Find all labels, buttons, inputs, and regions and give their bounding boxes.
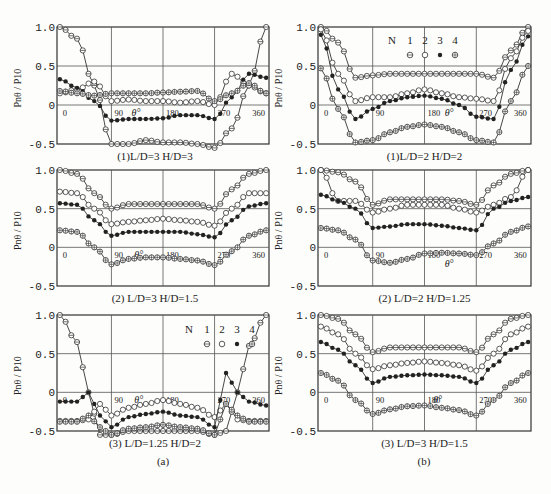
- marker: [434, 223, 438, 227]
- marker: [462, 207, 467, 212]
- marker: [514, 198, 518, 202]
- marker: [526, 324, 531, 329]
- marker: [456, 206, 461, 211]
- marker: [463, 376, 467, 380]
- marker: [167, 115, 171, 119]
- marker: [206, 222, 211, 227]
- marker: [98, 413, 102, 417]
- marker: [422, 87, 427, 92]
- marker: [57, 189, 62, 194]
- marker: [480, 376, 484, 380]
- marker: [189, 99, 194, 104]
- marker: [411, 373, 415, 377]
- marker: [359, 201, 364, 206]
- marker: [143, 401, 148, 406]
- marker: [502, 66, 507, 71]
- marker: [252, 203, 256, 207]
- marker: [405, 95, 409, 99]
- marker: [405, 222, 409, 226]
- legend-marker: [235, 342, 239, 346]
- group-label-a: (a): [157, 455, 169, 467]
- y-tick-label: 0: [309, 387, 316, 399]
- marker: [230, 380, 234, 384]
- marker: [468, 228, 472, 232]
- marker: [376, 95, 381, 100]
- marker: [126, 117, 130, 121]
- y-tick-label: 1.0: [35, 310, 55, 322]
- marker: [347, 205, 351, 209]
- marker: [195, 405, 200, 410]
- marker: [520, 174, 525, 179]
- legend: N1234: [388, 34, 458, 58]
- marker: [212, 117, 216, 121]
- marker: [195, 232, 199, 236]
- marker: [195, 219, 200, 224]
- marker: [405, 360, 410, 365]
- y-tick-label: 0.5: [296, 349, 316, 361]
- marker: [207, 116, 211, 120]
- y-tick-label: 1.0: [296, 22, 316, 34]
- marker: [115, 233, 119, 237]
- x-tick-label: 90: [114, 395, 123, 405]
- marker: [189, 414, 193, 418]
- marker: [485, 355, 490, 360]
- marker: [422, 93, 426, 97]
- legend-entry-label: 1: [204, 323, 210, 335]
- marker: [422, 202, 427, 207]
- marker: [417, 373, 421, 377]
- y-axis-label: Pnθ / P10: [12, 211, 23, 250]
- marker: [318, 27, 323, 32]
- y-tick-label: 0: [48, 100, 55, 112]
- x-tick-label: 360: [252, 250, 265, 260]
- marker: [382, 364, 387, 369]
- marker: [138, 413, 142, 417]
- marker: [347, 359, 351, 363]
- marker: [97, 210, 102, 215]
- marker: [155, 217, 160, 222]
- marker: [201, 233, 205, 237]
- marker: [440, 223, 444, 227]
- marker: [69, 83, 73, 87]
- marker: [410, 360, 415, 365]
- marker: [463, 226, 467, 230]
- marker: [218, 111, 222, 115]
- marker: [497, 359, 501, 363]
- marker: [241, 395, 245, 399]
- marker: [353, 206, 357, 210]
- marker: [229, 206, 234, 211]
- marker: [115, 411, 120, 416]
- marker: [479, 364, 484, 369]
- marker: [341, 78, 346, 83]
- marker: [474, 115, 478, 119]
- marker: [155, 230, 159, 234]
- marker: [416, 359, 421, 364]
- marker: [353, 351, 358, 356]
- marker: [149, 411, 153, 415]
- y-tick-label: -0.5: [290, 139, 316, 151]
- marker: [235, 390, 239, 394]
- marker: [376, 105, 380, 109]
- marker: [497, 346, 502, 351]
- marker: [201, 99, 206, 104]
- marker: [166, 398, 171, 403]
- marker: [451, 225, 455, 229]
- marker: [184, 230, 188, 234]
- marker: [433, 202, 438, 207]
- marker: [433, 360, 438, 365]
- marker: [456, 95, 461, 100]
- marker: [388, 375, 392, 379]
- marker: [166, 217, 171, 222]
- marker: [264, 201, 268, 205]
- marker: [491, 363, 495, 367]
- marker: [201, 408, 206, 413]
- marker: [183, 402, 188, 407]
- marker: [264, 191, 269, 196]
- marker: [451, 101, 455, 105]
- marker: [183, 218, 188, 223]
- marker: [468, 209, 473, 214]
- marker: [126, 405, 131, 410]
- marker: [370, 95, 375, 100]
- marker: [491, 351, 496, 356]
- marker: [138, 117, 142, 121]
- y-tick-label: 1.0: [296, 310, 316, 322]
